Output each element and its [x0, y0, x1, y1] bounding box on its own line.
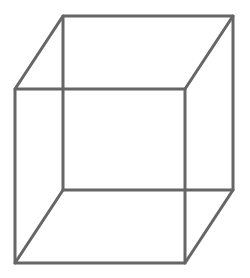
- cube-edge-bottom-left: [15, 190, 63, 263]
- cube-edge-bottom-right: [185, 190, 233, 263]
- cube-edge-top-right: [185, 16, 233, 89]
- cube-edge-top-left: [15, 16, 63, 89]
- cube-front-face: [15, 89, 185, 263]
- cube-back-face: [63, 16, 233, 190]
- cube-diagram: [0, 0, 250, 278]
